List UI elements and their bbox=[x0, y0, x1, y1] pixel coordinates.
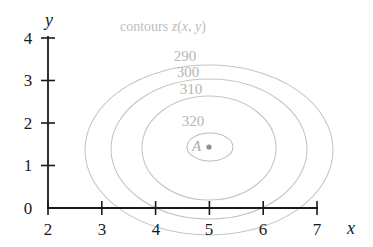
x-tick-label-3: 3 bbox=[92, 221, 112, 238]
point-a-label: A bbox=[192, 139, 201, 154]
y-tick-label-3: 3 bbox=[18, 72, 38, 89]
y-tick-label-4: 4 bbox=[18, 30, 38, 47]
title-comma: , bbox=[188, 19, 195, 34]
y-axis-label: y bbox=[45, 11, 53, 29]
title-close-paren: ) bbox=[201, 19, 206, 34]
x-tick-label-7: 7 bbox=[307, 221, 327, 238]
y-tick-label-1: 1 bbox=[18, 157, 38, 174]
contour-label-320: 320 bbox=[168, 114, 218, 129]
title-prefix-text: contours bbox=[120, 19, 172, 34]
y-tick-label-0: 0 bbox=[18, 200, 38, 217]
contour-label-300: 300 bbox=[163, 65, 213, 80]
x-tick-label-5: 5 bbox=[199, 221, 219, 238]
x-tick-label-6: 6 bbox=[253, 221, 273, 238]
contour-label-310: 310 bbox=[166, 82, 216, 97]
x-tick-label-2: 2 bbox=[38, 221, 58, 238]
contour-label-290: 290 bbox=[160, 49, 210, 64]
x-tick-label-4: 4 bbox=[146, 221, 166, 238]
y-tick-label-2: 2 bbox=[18, 115, 38, 132]
chart-title: contours z(x, y) bbox=[120, 20, 206, 34]
contour-plot-figure: contours z(x, y) 290 300 310 320 A 4 3 2… bbox=[0, 0, 373, 247]
point-a-marker bbox=[206, 144, 211, 149]
x-axis-label: x bbox=[347, 219, 355, 237]
